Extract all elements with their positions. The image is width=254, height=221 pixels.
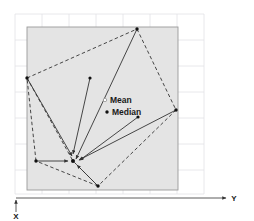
vertex-lower-left bbox=[34, 159, 37, 162]
scatter-figure: Mean Median Y X bbox=[0, 0, 254, 221]
convergence-point bbox=[71, 159, 75, 163]
vertex-bottom bbox=[96, 184, 99, 187]
vertex-right bbox=[174, 108, 177, 111]
mean-marker bbox=[103, 98, 106, 101]
interior-point-upper bbox=[88, 76, 91, 79]
y-axis-label: Y bbox=[231, 194, 237, 203]
vertex-left bbox=[25, 76, 28, 79]
plot-region bbox=[27, 27, 178, 190]
mean-label: Mean bbox=[110, 95, 132, 105]
x-axis-label: X bbox=[13, 212, 19, 221]
median-marker bbox=[105, 110, 108, 113]
vertex-top bbox=[135, 27, 138, 30]
figure-canvas: Mean Median Y X bbox=[0, 0, 254, 221]
median-label: Median bbox=[112, 107, 141, 117]
